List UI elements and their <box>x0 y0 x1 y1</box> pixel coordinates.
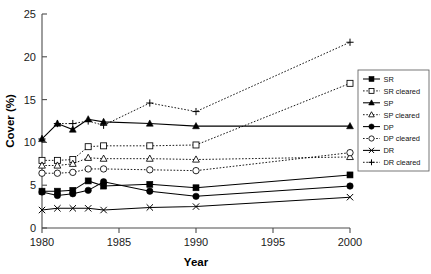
y-tick-label: 25 <box>24 8 36 20</box>
x-tick-labels: 19801985199019952000 <box>30 236 362 248</box>
x-tick-label: 1995 <box>261 236 285 248</box>
chart-container: 0510152025 19801985199019952000 Cover (%… <box>0 0 431 274</box>
x-axis-title: Year <box>184 256 209 268</box>
data-point-marker <box>70 191 76 197</box>
series-sp-cleared <box>39 153 354 168</box>
data-point-marker <box>85 117 92 124</box>
x-tick-label: 1990 <box>184 236 208 248</box>
data-point-marker <box>85 166 91 172</box>
data-point-marker <box>369 136 374 141</box>
data-point-marker <box>85 144 91 150</box>
legend-label: SR cleared <box>384 87 421 96</box>
x-tick-label: 1980 <box>30 236 54 248</box>
data-point-marker <box>39 170 45 176</box>
data-point-marker <box>193 193 199 199</box>
y-tick-labels: 0510152025 <box>24 8 36 234</box>
y-tick-label: 5 <box>30 179 36 191</box>
data-point-marker <box>347 149 353 155</box>
data-point-marker <box>147 167 153 173</box>
data-point-marker <box>85 154 92 160</box>
data-point-marker <box>193 185 199 191</box>
legend-label: SR <box>384 75 394 84</box>
data-point-marker <box>147 143 153 149</box>
data-point-marker <box>100 166 106 172</box>
series-sp <box>39 116 354 142</box>
data-point-marker <box>146 155 153 161</box>
y-tick-label: 20 <box>24 51 36 63</box>
data-point-marker <box>369 77 374 82</box>
data-point-marker <box>369 88 374 93</box>
data-series-group <box>38 39 353 214</box>
data-point-marker <box>146 99 153 106</box>
data-point-marker <box>193 167 199 173</box>
data-point-marker <box>346 39 353 46</box>
x-tick-label: 2000 <box>338 236 362 248</box>
data-point-marker <box>147 188 153 194</box>
data-point-marker <box>85 187 91 193</box>
legend-label: DP cleared <box>384 134 420 143</box>
chart-legend: SRSR clearedSPSP clearedDPDP clearedDRDR… <box>358 70 429 171</box>
data-point-marker <box>193 156 200 162</box>
y-tick-label: 10 <box>24 136 36 148</box>
legend-label: DR <box>384 146 395 155</box>
legend-label: DP <box>384 123 394 132</box>
legend-label: SP <box>384 99 394 108</box>
data-point-marker <box>347 172 353 178</box>
line-chart: 0510152025 19801985199019952000 Cover (%… <box>0 0 431 274</box>
data-point-marker <box>54 170 60 176</box>
data-point-marker <box>101 143 107 149</box>
legend-border <box>358 70 429 171</box>
data-point-marker <box>369 124 374 129</box>
data-point-marker <box>69 120 76 127</box>
data-point-marker <box>100 179 106 185</box>
data-point-marker <box>70 169 76 175</box>
y-axis-title: Cover (%) <box>4 94 16 148</box>
y-tick-label: 0 <box>30 222 36 234</box>
data-point-marker <box>54 192 60 198</box>
data-point-marker <box>193 142 199 148</box>
series-dp-cleared <box>39 149 353 176</box>
y-tick-label: 15 <box>24 94 36 106</box>
data-point-marker <box>347 183 353 189</box>
data-point-marker <box>192 108 199 115</box>
data-point-marker <box>85 178 91 184</box>
data-point-marker <box>147 181 153 187</box>
x-tick-marks <box>42 228 350 233</box>
x-tick-label: 1985 <box>107 236 131 248</box>
legend-label: SP cleared <box>384 111 420 120</box>
data-point-marker <box>347 80 353 86</box>
y-tick-marks <box>42 14 47 228</box>
legend-label: DR cleared <box>384 158 421 167</box>
data-point-marker <box>39 189 45 195</box>
